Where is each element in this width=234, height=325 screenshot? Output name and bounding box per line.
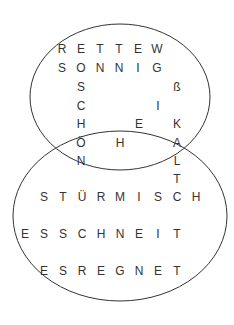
grid-letter: S (151, 190, 165, 204)
grid-letter: E (37, 264, 51, 278)
grid-letter: N (74, 154, 88, 168)
grid-letter: E (131, 42, 145, 56)
grid-letter: H (113, 136, 127, 150)
grid-letter: E (74, 42, 88, 56)
grid-letter: N (113, 227, 127, 241)
grid-letter: G (150, 61, 164, 75)
grid-letter: I (151, 227, 165, 241)
grid-letter: R (75, 264, 89, 278)
grid-letter: S (55, 61, 69, 75)
grid-letter: C (74, 99, 88, 113)
grid-letter: ß (170, 80, 184, 94)
grid-letter: I (131, 61, 145, 75)
grid-letter: E (132, 117, 146, 131)
grid-letter: E (132, 227, 146, 241)
grid-letter: N (132, 264, 146, 278)
grid-letter: C (170, 190, 184, 204)
grid-letter: G (113, 264, 127, 278)
grid-letter: K (170, 117, 184, 131)
grid-letter: H (74, 117, 88, 131)
grid-letter: T (56, 190, 70, 204)
grid-letter: E (151, 264, 165, 278)
grid-letter: E (94, 264, 108, 278)
grid-letter: R (94, 190, 108, 204)
grid-letter: E (18, 227, 32, 241)
grid-letter: S (74, 80, 88, 94)
grid-letter: A (170, 136, 184, 150)
grid-letter: T (93, 42, 107, 56)
grid-letter: M (113, 190, 127, 204)
grid-letter: W (150, 42, 164, 56)
grid-letter: T (170, 172, 184, 186)
grid-letter: T (170, 264, 184, 278)
grid-letter: S (37, 190, 51, 204)
grid-letter: H (94, 227, 108, 241)
grid-letter: R (55, 42, 69, 56)
grid-letter: H (189, 190, 203, 204)
grid-letter: N (93, 61, 107, 75)
grid-letter: C (75, 227, 89, 241)
grid-letter: S (56, 227, 70, 241)
grid-letter: I (151, 99, 165, 113)
grid-letter: T (112, 42, 126, 56)
grid-letter: O (74, 61, 88, 75)
grid-letter: T (170, 227, 184, 241)
grid-letter: I (132, 190, 146, 204)
grid-letter: L (170, 154, 184, 168)
grid-letter: N (112, 61, 126, 75)
grid-letter: S (37, 227, 51, 241)
grid-letter: Ü (75, 190, 89, 204)
grid-letter: Ö (74, 136, 88, 150)
grid-letter: S (56, 264, 70, 278)
